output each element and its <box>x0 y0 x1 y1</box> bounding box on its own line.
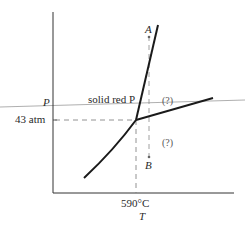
point-b-label: B <box>145 160 152 171</box>
y-axis-label: P <box>43 97 50 108</box>
phase-boundary-upper <box>136 25 158 120</box>
x-tick-label: 590°C <box>121 198 149 209</box>
x-axis-label: T <box>139 211 145 222</box>
y-tick-label: 43 atm <box>15 114 45 125</box>
region-label-lower-right: (?) <box>162 138 173 148</box>
phase-boundary-right <box>136 98 213 120</box>
phase-boundary-lower <box>84 120 136 178</box>
point-b-marker <box>148 156 151 159</box>
region-label-upper-right: (?) <box>162 96 173 106</box>
point-a-marker <box>148 36 151 39</box>
point-a-label: A <box>145 24 152 35</box>
line-label-solid-red-p: solid red P <box>88 94 135 105</box>
